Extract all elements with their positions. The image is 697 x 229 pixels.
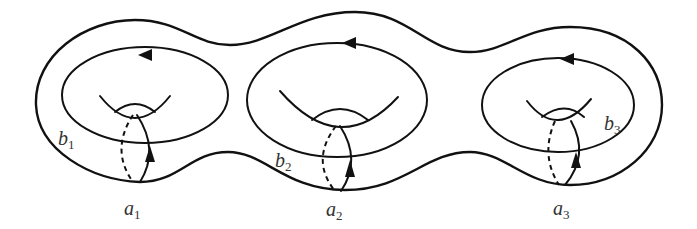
- a1-arrow-icon: [145, 146, 155, 162]
- b2-arrow-icon: [342, 37, 356, 49]
- label-b2-base: b: [275, 149, 285, 171]
- a2-hidden-arc: [323, 126, 336, 191]
- label-a3: a3: [553, 198, 570, 221]
- handle-1: [62, 47, 228, 182]
- label-b2: b2: [275, 150, 292, 173]
- label-b1: b1: [58, 128, 75, 151]
- label-b3-base: b: [604, 112, 614, 134]
- label-a1: a1: [124, 198, 141, 221]
- a3-hidden-arc: [548, 121, 559, 185]
- label-a2: a2: [326, 199, 343, 222]
- genus-three-surface-diagram: [0, 0, 697, 229]
- a1-hidden-arc: [122, 115, 134, 182]
- label-a3-sub: 3: [563, 207, 570, 222]
- label-b1-base: b: [58, 127, 68, 149]
- label-a3-base: a: [553, 197, 563, 219]
- label-a2-base: a: [326, 198, 336, 220]
- a2-arrow-icon: [345, 160, 355, 177]
- hole-2-lower-arc: [312, 109, 368, 120]
- b3-loop: [482, 58, 634, 152]
- a3-visible-arc: [565, 121, 579, 185]
- b1-arrow-icon: [138, 49, 152, 61]
- label-b1-sub: 1: [68, 137, 75, 152]
- b2-loop: [247, 43, 427, 157]
- label-b3: b3: [604, 113, 621, 136]
- b3-arrow-icon: [560, 53, 574, 65]
- label-b2-sub: 2: [285, 159, 292, 174]
- label-a1-sub: 1: [134, 207, 141, 222]
- label-b3-sub: 3: [614, 122, 621, 137]
- surface-outline: [36, 12, 662, 190]
- hole-3-lower-arc: [542, 109, 584, 118]
- hole-1-upper-arc: [100, 96, 170, 118]
- label-a2-sub: 2: [336, 208, 343, 223]
- label-a1-base: a: [124, 197, 134, 219]
- hole-1-lower-arc: [115, 104, 155, 112]
- a1-visible-arc: [137, 115, 149, 182]
- a2-visible-arc: [340, 126, 351, 191]
